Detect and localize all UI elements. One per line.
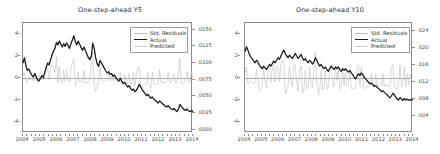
- x-axis-minor-tick: [43, 134, 44, 136]
- x-axis-minor-tick: [391, 134, 392, 136]
- x-axis-minor-tick: [192, 134, 193, 136]
- x-axis-minor-tick: [282, 134, 283, 136]
- x-axis-minor-tick: [99, 134, 100, 136]
- x-axis-minor-tick: [56, 134, 57, 136]
- chart-title-y5: One-step-ahead Y5: [0, 6, 220, 14]
- x-axis-minor-tick: [307, 134, 308, 136]
- legend-swatch-thick-line: [134, 39, 147, 40]
- x-axis-minor-tick: [290, 134, 291, 136]
- x-axis-tick-label: 2013: [389, 136, 402, 142]
- right-axis-tick: .004: [417, 112, 429, 118]
- x-axis-minor-tick: [162, 134, 163, 136]
- axis-tick-mark: [18, 77, 21, 78]
- x-axis-y5: 2004200520062007200820092010201120122013…: [22, 134, 192, 146]
- legend-item: Std. Residuals: [134, 30, 184, 37]
- left-axis-y10: 420-2-4: [220, 22, 240, 132]
- x-axis-minor-tick: [315, 134, 316, 136]
- x-axis-minor-tick: [366, 134, 367, 136]
- legend-swatch-thin-line: [134, 46, 147, 47]
- x-axis-minor-tick: [378, 134, 379, 136]
- legend-item: Actual: [355, 37, 406, 44]
- x-axis-tick-label: 2007: [66, 136, 79, 142]
- axis-tick-mark: [238, 77, 241, 78]
- x-axis-minor-tick: [35, 134, 36, 136]
- left-axis-y5: 420-2-4: [0, 22, 20, 132]
- x-axis-minor-tick: [120, 134, 121, 136]
- x-axis-minor-tick: [383, 134, 384, 136]
- right-axis-tick: .024: [417, 27, 429, 33]
- x-axis-minor-tick: [48, 134, 49, 136]
- series-path-std-residuals: [245, 52, 413, 95]
- right-axis-tick: .0125: [197, 42, 212, 48]
- x-axis-tick-label: 2010: [117, 136, 130, 142]
- right-axis-tick: .0075: [197, 76, 212, 82]
- right-axis-tick: .016: [417, 61, 429, 67]
- x-axis-tick-label: 2011: [355, 136, 368, 142]
- x-axis-minor-tick: [328, 134, 329, 136]
- x-axis-tick-label: 2009: [100, 136, 113, 142]
- x-axis-minor-tick: [111, 134, 112, 136]
- x-axis-minor-tick: [167, 134, 168, 136]
- x-axis-minor-tick: [332, 134, 333, 136]
- axis-tick-mark: [238, 99, 241, 100]
- legend-swatch-thick-line: [355, 39, 368, 40]
- figure-canvas: One-step-ahead Y5 420-2-4 .0150.0125.010…: [0, 0, 440, 154]
- x-axis-minor-tick: [294, 134, 295, 136]
- x-axis-minor-tick: [324, 134, 325, 136]
- x-axis-minor-tick: [133, 134, 134, 136]
- right-axis-tick: .0100: [197, 59, 212, 65]
- legend-label: Std. Residuals: [150, 30, 187, 37]
- x-axis-minor-tick: [86, 134, 87, 136]
- x-axis-minor-tick: [273, 134, 274, 136]
- right-axis-tick: .0150: [197, 26, 212, 32]
- x-axis-tick-label: 2012: [151, 136, 164, 142]
- x-axis-tick-label: 2005: [32, 136, 45, 142]
- right-axis-tick: .0025: [197, 109, 212, 115]
- chart-title-y10: One-step-ahead Y10: [220, 6, 440, 14]
- legend-item: Actual: [134, 37, 184, 44]
- x-axis-minor-tick: [248, 134, 249, 136]
- x-axis-minor-tick: [65, 134, 66, 136]
- x-axis-minor-tick: [188, 134, 189, 136]
- x-axis-minor-tick: [269, 134, 270, 136]
- x-axis-minor-tick: [137, 134, 138, 136]
- right-axis-y10: .024.020.016.012.008.004: [412, 22, 440, 132]
- x-axis-minor-tick: [374, 134, 375, 136]
- x-axis-minor-tick: [265, 134, 266, 136]
- x-axis-minor-tick: [404, 134, 405, 136]
- x-axis-minor-tick: [94, 134, 95, 136]
- axis-tick-mark: [18, 121, 21, 122]
- x-axis-minor-tick: [82, 134, 83, 136]
- x-axis-minor-tick: [145, 134, 146, 136]
- x-axis-minor-tick: [107, 134, 108, 136]
- x-axis-minor-tick: [244, 134, 245, 136]
- legend-swatch-thin-line: [355, 46, 368, 47]
- right-axis-tick: .012: [417, 78, 429, 84]
- x-axis-tick-label: 2014: [405, 136, 418, 142]
- axis-tick-mark: [18, 33, 21, 34]
- axis-tick-mark: [238, 121, 241, 122]
- legend-item: Predicted: [134, 43, 184, 50]
- legend-swatch-thin-line: [355, 33, 368, 34]
- legend-item: Std. Residuals: [355, 30, 406, 37]
- x-axis-minor-tick: [154, 134, 155, 136]
- x-axis-minor-tick: [353, 134, 354, 136]
- axis-tick-mark: [238, 33, 241, 34]
- x-axis-minor-tick: [370, 134, 371, 136]
- x-axis-minor-tick: [349, 134, 350, 136]
- legend-label: Std. Residuals: [371, 30, 408, 37]
- legend-label: Actual: [150, 37, 166, 44]
- x-axis-minor-tick: [124, 134, 125, 136]
- x-axis-tick-label: 2014: [185, 136, 198, 142]
- x-axis-minor-tick: [179, 134, 180, 136]
- x-axis-minor-tick: [345, 134, 346, 136]
- x-axis-minor-tick: [22, 134, 23, 136]
- x-axis-minor-tick: [278, 134, 279, 136]
- x-axis-tick-label: 2004: [237, 136, 250, 142]
- x-axis-minor-tick: [39, 134, 40, 136]
- legend-label: Predicted: [371, 43, 395, 50]
- right-axis-tick: .0050: [197, 92, 212, 98]
- x-axis-tick-label: 2006: [49, 136, 62, 142]
- x-axis-minor-tick: [320, 134, 321, 136]
- x-axis-minor-tick: [69, 134, 70, 136]
